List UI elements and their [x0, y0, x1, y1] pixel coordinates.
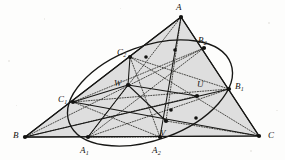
point-W [126, 83, 130, 87]
point-B2 [202, 46, 206, 50]
label-V: V [160, 129, 166, 138]
point-V [164, 119, 168, 123]
scan-speckle-5 [250, 150, 252, 152]
point-C1 [71, 100, 75, 104]
scan-speckle-6 [120, 8, 121, 9]
point-B [23, 135, 27, 139]
label-subscript-C1: 1 [64, 99, 67, 105]
intersection-node-1 [169, 108, 173, 112]
point-A [179, 15, 183, 19]
point-A1 [86, 135, 90, 139]
scan-speckle-1 [268, 22, 270, 24]
label-W: W [114, 79, 122, 88]
label-C2: C2 [117, 48, 126, 57]
intersection-node-3 [144, 55, 148, 59]
point-U [195, 94, 199, 98]
label-C1: C1 [58, 95, 67, 104]
point-C2 [128, 55, 132, 59]
label-U: U [197, 80, 204, 89]
triangle-fill [25, 17, 259, 137]
scan-speckle-4 [44, 18, 45, 20]
scan-speckle-7 [16, 105, 17, 106]
intersection-node-4 [173, 48, 177, 52]
point-B1 [227, 87, 231, 91]
geometry-figure [0, 0, 285, 160]
intersection-node-2 [194, 116, 198, 120]
label-A1: A1 [80, 146, 89, 155]
label-subscript-B1: 1 [241, 86, 244, 92]
label-subscript-B2: 2 [204, 40, 207, 46]
label-subscript-A2: 2 [158, 150, 161, 156]
scan-speckle-2 [8, 60, 10, 62]
label-A2: A2 [152, 146, 161, 155]
label-B1: B1 [235, 82, 244, 91]
label-C: C [268, 131, 274, 140]
label-A: A [176, 3, 182, 12]
label-B2: B2 [198, 36, 207, 45]
point-C [257, 134, 261, 138]
scan-speckle-3 [276, 110, 278, 111]
label-subscript-C2: 2 [123, 52, 126, 58]
label-B: B [13, 131, 19, 140]
label-subscript-A1: 1 [86, 150, 89, 156]
